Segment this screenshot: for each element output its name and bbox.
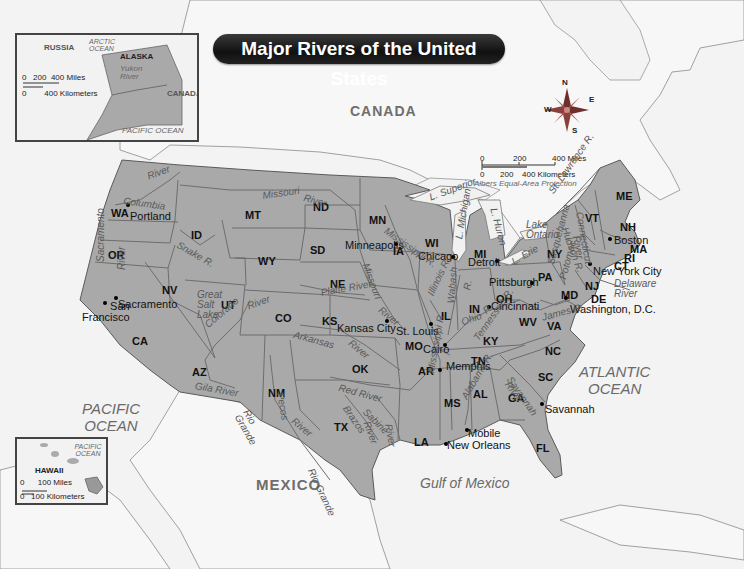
label-yukon-river: Yukon River bbox=[120, 65, 150, 81]
state-label-sc: SC bbox=[538, 372, 553, 383]
state-label-la: LA bbox=[414, 437, 429, 448]
state-label-co: CO bbox=[275, 313, 292, 324]
river-label: Sacramento bbox=[96, 208, 106, 262]
state-label-mn: MN bbox=[369, 215, 386, 226]
city-label: Boston bbox=[614, 235, 648, 246]
hawaii-inset: PACIFIC OCEAN HAWAII 0 100 Miles 0 100 K… bbox=[15, 437, 108, 505]
state-label-ca: CA bbox=[132, 336, 148, 347]
state-label-pa: PA bbox=[538, 272, 552, 283]
city-label: New York City bbox=[593, 266, 661, 277]
state-label-nj: NJ bbox=[585, 281, 599, 292]
compass-w: W bbox=[544, 106, 552, 114]
hawaii-scale-miles: 0 100 Miles bbox=[20, 479, 72, 487]
ocean-label-pacific: PACIFIC OCEAN bbox=[82, 401, 140, 434]
label-russia: RUSSIA bbox=[44, 44, 74, 52]
city-dot-icon bbox=[608, 237, 612, 241]
state-label-ok: OK bbox=[352, 364, 369, 375]
state-label-va: VA bbox=[547, 321, 561, 332]
state-label-nv: NV bbox=[162, 285, 177, 296]
state-label-wa: WA bbox=[111, 208, 129, 219]
label-pacific-inset: PACIFIC OCEAN bbox=[122, 127, 184, 135]
label-arctic-ocean: ARCTIC OCEAN bbox=[89, 38, 129, 52]
alaska-scale-km: 0 400 Kilometers bbox=[22, 90, 98, 98]
compass-n: N bbox=[562, 79, 568, 87]
state-label-fl: FL bbox=[536, 443, 549, 454]
hawaii-scale-km: 0 100 Kilometers bbox=[20, 493, 84, 501]
city-dot-icon bbox=[564, 296, 568, 300]
label-alaska: ALASKA bbox=[120, 53, 153, 61]
label-hawaii: HAWAII bbox=[35, 467, 63, 475]
city-label: San Francisco bbox=[82, 301, 130, 323]
river-label: Delaware River bbox=[614, 279, 656, 299]
label-canada-inset: CANADA bbox=[167, 90, 199, 98]
state-label-wy: WY bbox=[258, 256, 276, 267]
scale-miles-0: 0 bbox=[480, 155, 484, 163]
state-label-sd: SD bbox=[310, 245, 325, 256]
state-label-ks: KS bbox=[322, 316, 337, 327]
city-dot-icon bbox=[540, 402, 544, 406]
state-label-ms: MS bbox=[444, 398, 461, 409]
state-label-tx: TX bbox=[334, 422, 348, 433]
city-label: Savannah bbox=[545, 404, 595, 415]
river-label: River bbox=[117, 247, 127, 270]
city-label: Detroit bbox=[468, 257, 500, 268]
city-label: Mobile bbox=[468, 428, 500, 439]
city-label: Pittsburgh bbox=[489, 277, 539, 288]
city-label: Portland bbox=[130, 211, 171, 222]
state-label-wi: WI bbox=[425, 238, 438, 249]
label-pacific-hawaii: PACIFIC OCEAN bbox=[73, 443, 103, 457]
scale-km-0: 0 bbox=[480, 171, 484, 179]
state-label-wv: WV bbox=[519, 317, 537, 328]
state-label-me: ME bbox=[616, 191, 633, 202]
scale-km-200: 200 bbox=[500, 171, 513, 179]
state-label-al: AL bbox=[473, 389, 488, 400]
alaska-inset: RUSSIA ARCTIC OCEAN ALASKA Yukon River C… bbox=[15, 33, 199, 142]
ocean-label-atlantic: ATLANTIC OCEAN bbox=[579, 364, 650, 397]
city-label: Kansas City bbox=[337, 323, 396, 334]
city-label: New Orleans bbox=[447, 440, 511, 451]
state-label-nc: NC bbox=[545, 346, 561, 357]
state-label-nh: NH bbox=[620, 222, 636, 233]
state-label-az: AZ bbox=[192, 367, 207, 378]
compass-e: E bbox=[589, 96, 594, 104]
scale-miles-200: 200 bbox=[513, 155, 526, 163]
compass-s: S bbox=[572, 127, 577, 135]
map-title: Major Rivers of the United States bbox=[213, 34, 505, 64]
state-label-ky: KY bbox=[483, 336, 498, 347]
river-label: R. bbox=[462, 279, 474, 291]
alaska-scale-miles: 0 200 400 Miles bbox=[22, 74, 85, 82]
ocean-label-gulf-of-mexico: Gulf of Mexico bbox=[420, 476, 509, 491]
state-label-mt: MT bbox=[245, 210, 261, 221]
state-label-mo: MO bbox=[405, 341, 423, 352]
country-label-canada: CANADA bbox=[350, 104, 417, 118]
state-label-id: ID bbox=[191, 230, 202, 241]
city-dot-icon bbox=[438, 368, 442, 372]
